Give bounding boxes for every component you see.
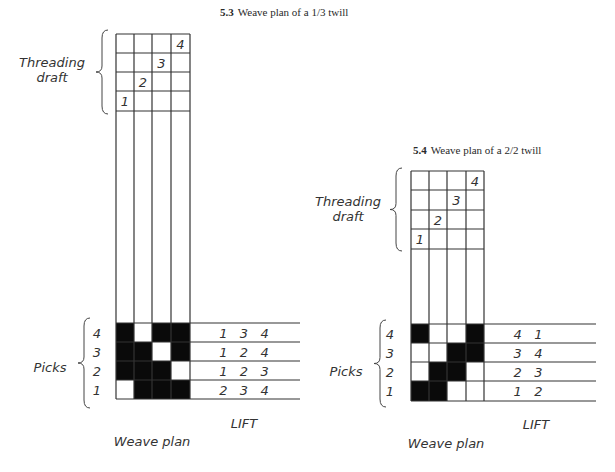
- figure-5-3-weave-plan-1-3-twill: 1234Threadingdraft4321Picks1 3 41 2 41 2…: [19, 30, 300, 449]
- weave-cell-raised: [116, 361, 134, 380]
- weave-cell-raised: [447, 362, 466, 381]
- lift-value: 1 2 3: [219, 364, 269, 379]
- lift-label: LIFT: [231, 416, 259, 431]
- lift-value: 1 3 4: [219, 326, 269, 341]
- threading-number: 4: [176, 37, 184, 52]
- lift-value: 3 4: [514, 346, 543, 361]
- pick-number: 3: [386, 346, 394, 361]
- pick-number: 1: [93, 383, 101, 398]
- weave-cell-raised: [411, 324, 429, 343]
- pick-number: 4: [93, 326, 101, 341]
- weave-cell-raised: [171, 342, 190, 361]
- weave-cell-raised: [116, 323, 134, 342]
- threading-number: 2: [139, 75, 147, 90]
- weave-cell-raised: [134, 380, 152, 399]
- picks-brace-icon: [78, 318, 90, 408]
- pick-number: 2: [93, 364, 101, 379]
- picks-brace-icon: [374, 320, 386, 407]
- weave-cell-raised: [116, 342, 134, 361]
- threading-number: 1: [121, 94, 129, 109]
- pick-number: 4: [386, 327, 394, 342]
- weave-cell-raised: [466, 324, 484, 343]
- draft-label: draft: [332, 209, 364, 224]
- picks-label: Picks: [330, 364, 363, 379]
- weave-cell-raised: [152, 323, 171, 342]
- threading-label: Threading: [315, 194, 381, 209]
- weave-cell-raised: [429, 381, 447, 401]
- weave-cell-raised: [134, 342, 152, 361]
- lift-value: 4 1: [514, 327, 543, 342]
- picks-label: Picks: [34, 360, 67, 375]
- threading-number: 4: [471, 174, 479, 189]
- threading-number: 2: [434, 213, 442, 228]
- threading-brace-icon: [390, 168, 402, 251]
- threading-number: 3: [452, 193, 460, 208]
- lift-value: 2 3: [514, 365, 543, 380]
- lift-label: LIFT: [523, 417, 551, 432]
- pick-number: 1: [386, 384, 394, 399]
- weave-cell-raised: [429, 362, 447, 381]
- pick-number: 2: [386, 365, 394, 380]
- weave-plan-label: Weave plan: [408, 436, 485, 451]
- lift-value: 1 2: [514, 384, 543, 399]
- weave-plan-label: Weave plan: [114, 434, 191, 449]
- weave-plan-diagram: 1234Threadingdraft4321Picks1 3 41 2 41 2…: [0, 0, 615, 472]
- lift-value: 2 3 4: [219, 383, 269, 398]
- weave-cell-raised: [171, 323, 190, 342]
- threading-label: Threading: [19, 55, 85, 70]
- weave-cell-raised: [447, 343, 466, 362]
- threading-number: 1: [416, 232, 424, 247]
- weave-cell-raised: [466, 343, 484, 362]
- pick-number: 3: [93, 345, 101, 360]
- threading-number: 3: [157, 56, 165, 71]
- lift-value: 1 2 4: [219, 345, 269, 360]
- threading-brace-icon: [96, 30, 108, 114]
- draft-label: draft: [36, 70, 68, 85]
- weave-cell-raised: [411, 381, 429, 401]
- figure-5-4-weave-plan-2-2-twill: 1234Threadingdraft4321Picks4 13 42 31 2L…: [315, 168, 596, 451]
- weave-cell-raised: [152, 380, 171, 399]
- weave-cell-raised: [134, 361, 152, 380]
- weave-cell-raised: [171, 380, 190, 399]
- weave-cell-raised: [152, 361, 171, 380]
